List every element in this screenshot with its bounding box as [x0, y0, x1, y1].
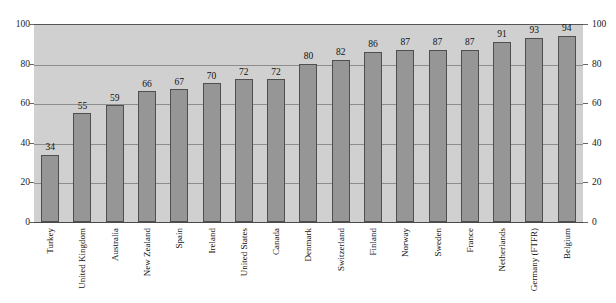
- y-axis-left-tick-100: 100: [16, 20, 30, 30]
- bar-slot: 67: [164, 24, 194, 222]
- category-slot: Netherlands: [487, 226, 517, 303]
- category-label: New Zealand: [142, 228, 151, 276]
- bar-slot: 70: [197, 24, 227, 222]
- bar-value-label: 72: [261, 68, 291, 78]
- bar-slot: 94: [552, 24, 582, 222]
- bar[interactable]: [170, 89, 188, 222]
- bar-value-label: 80: [293, 52, 323, 62]
- bar-value-label: 72: [229, 68, 259, 78]
- bar-value-label: 94: [552, 24, 582, 34]
- y-axis-right-tick-20: 20: [592, 178, 602, 188]
- bar-slot: 86: [358, 24, 388, 222]
- category-slot: France: [455, 226, 485, 303]
- bar-slot: 87: [423, 24, 453, 222]
- y-axis-right-tick-100: 100: [592, 20, 606, 30]
- bar-slot: 59: [100, 24, 130, 222]
- bar[interactable]: [138, 91, 156, 222]
- bar-value-label: 70: [197, 72, 227, 82]
- category-label: United Kingdom: [78, 228, 87, 289]
- bar[interactable]: [429, 50, 447, 222]
- bar-slot: 91: [487, 24, 517, 222]
- bar-series: 3455596667707272808286878787919394: [34, 24, 583, 222]
- category-slot: Germany (FTFR): [519, 226, 549, 303]
- bar-value-label: 87: [423, 38, 453, 48]
- bar-value-label: 87: [390, 38, 420, 48]
- bar-slot: 87: [390, 24, 420, 222]
- category-label: Germany (FTFR): [530, 228, 539, 291]
- bar-slot: 55: [67, 24, 97, 222]
- bar-slot: 93: [519, 24, 549, 222]
- bar[interactable]: [203, 83, 221, 222]
- tick-mark: [583, 222, 588, 223]
- x-axis-line: [34, 222, 583, 223]
- category-slot: Switzerland: [326, 226, 356, 303]
- bar-value-label: 93: [519, 26, 549, 36]
- bar[interactable]: [493, 42, 511, 222]
- category-slot: Belgium: [552, 226, 582, 303]
- bar-value-label: 59: [100, 94, 130, 104]
- category-label: Denmark: [304, 228, 313, 262]
- category-slot: United Kingdom: [67, 226, 97, 303]
- category-label: United States: [239, 228, 248, 276]
- category-label: Spain: [175, 228, 184, 249]
- category-slot: Australia: [100, 226, 130, 303]
- tick-mark: [583, 64, 588, 65]
- y-axis-right-tick-60: 60: [592, 99, 602, 109]
- bar[interactable]: [396, 50, 414, 222]
- bar-value-label: 67: [164, 78, 194, 88]
- tick-mark: [583, 182, 588, 183]
- category-label: France: [465, 228, 474, 253]
- y-axis-right-tick-80: 80: [592, 60, 602, 70]
- category-slot: Spain: [164, 226, 194, 303]
- bar[interactable]: [267, 79, 285, 222]
- bar[interactable]: [364, 52, 382, 222]
- bar[interactable]: [106, 105, 124, 222]
- bar-slot: 34: [35, 24, 65, 222]
- category-label: Ireland: [207, 228, 216, 253]
- bar[interactable]: [41, 155, 59, 222]
- y-axis-right-tick-40: 40: [592, 139, 602, 149]
- y-axis-right-tick-0: 0: [592, 218, 597, 228]
- category-slot: Sweden: [423, 226, 453, 303]
- category-slot: United States: [229, 226, 259, 303]
- bar[interactable]: [525, 38, 543, 222]
- category-label: Belgium: [562, 228, 571, 259]
- category-label: Netherlands: [498, 228, 507, 271]
- bar-slot: 80: [293, 24, 323, 222]
- bar-slot: 82: [326, 24, 356, 222]
- bar-value-label: 66: [132, 80, 162, 90]
- category-slot: Finland: [358, 226, 388, 303]
- category-label: Norway: [401, 228, 410, 257]
- bar[interactable]: [558, 36, 576, 222]
- category-label: Australia: [110, 228, 119, 261]
- bar[interactable]: [332, 60, 350, 222]
- bar-value-label: 91: [487, 30, 517, 40]
- bar[interactable]: [235, 79, 253, 222]
- bar-value-label: 34: [35, 143, 65, 153]
- category-slot: Turkey: [35, 226, 65, 303]
- bar-slot: 72: [261, 24, 291, 222]
- x-axis-labels: TurkeyUnited KingdomAustraliaNew Zealand…: [34, 226, 583, 303]
- bar-slot: 72: [229, 24, 259, 222]
- bar-chart: 100 80 60 40 20 0 100 80 60 40 20 0 3455…: [0, 0, 616, 303]
- tick-mark: [583, 24, 588, 25]
- category-slot: Denmark: [293, 226, 323, 303]
- category-slot: Ireland: [197, 226, 227, 303]
- bar-slot: 66: [132, 24, 162, 222]
- bar-value-label: 87: [455, 38, 485, 48]
- tick-mark: [583, 103, 588, 104]
- tick-mark: [583, 143, 588, 144]
- category-label: Canada: [272, 228, 281, 255]
- category-label: Finland: [368, 228, 377, 256]
- category-label: Switzerland: [336, 228, 345, 271]
- bar-value-label: 55: [67, 102, 97, 112]
- category-slot: New Zealand: [132, 226, 162, 303]
- bar-slot: 87: [455, 24, 485, 222]
- bar-value-label: 82: [326, 48, 356, 58]
- category-slot: Canada: [261, 226, 291, 303]
- category-label: Turkey: [46, 228, 55, 254]
- bar[interactable]: [461, 50, 479, 222]
- bar[interactable]: [299, 64, 317, 222]
- bar-value-label: 86: [358, 40, 388, 50]
- bar[interactable]: [73, 113, 91, 222]
